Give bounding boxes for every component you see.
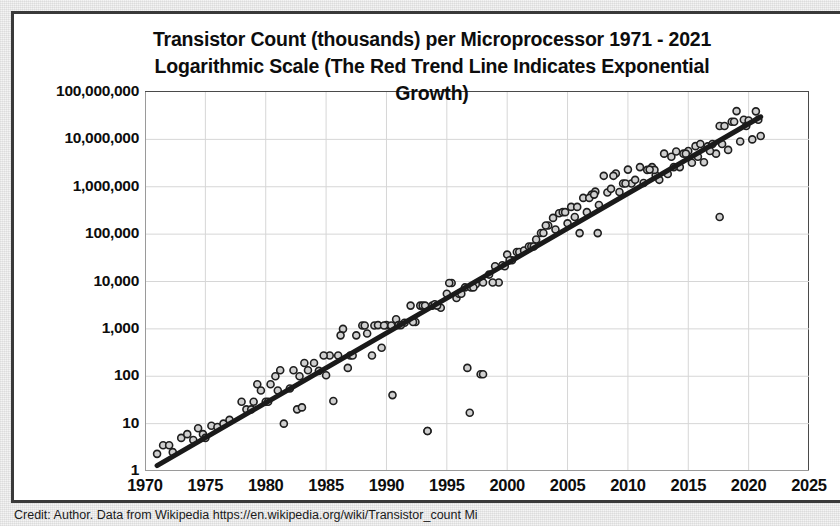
x-axis-tick-label: 1985: [308, 476, 344, 495]
plot-wrapper: [145, 91, 809, 470]
data-point: [267, 381, 274, 388]
data-point: [337, 332, 344, 339]
y-axis-tick-label: 1,000,000: [73, 177, 139, 195]
x-axis-tick-label: 2020: [731, 476, 767, 495]
data-point-outlier: [424, 427, 431, 434]
data-point: [154, 450, 161, 457]
x-axis-tick-label: 2005: [550, 476, 586, 495]
data-point: [489, 279, 496, 286]
x-axis-tick-label: 1975: [188, 476, 224, 495]
data-point: [542, 222, 549, 229]
data-point-outlier: [594, 230, 601, 237]
x-axis-tick-label: 1990: [369, 476, 405, 495]
data-point: [622, 180, 629, 187]
y-axis-tick-label: 100,000: [85, 224, 139, 242]
data-point: [700, 159, 707, 166]
x-axis-tick-label: 1995: [429, 476, 465, 495]
data-point: [533, 236, 540, 243]
screenshot-root: Transistor Count (thousands) per Micropr…: [0, 0, 840, 526]
data-point: [301, 360, 308, 367]
x-axis-tick-label: 1970: [127, 476, 163, 495]
data-point: [673, 148, 680, 155]
chart-card: Transistor Count (thousands) per Micropr…: [11, 11, 840, 503]
data-point: [757, 132, 764, 139]
data-point: [733, 108, 740, 115]
scatter-plot-svg: [145, 92, 809, 471]
data-point: [591, 191, 598, 198]
data-point: [311, 360, 318, 367]
data-point-outlier: [389, 392, 396, 399]
data-point: [250, 398, 257, 405]
data-point: [752, 108, 759, 115]
data-point: [697, 140, 704, 147]
x-axis-tick-label: 1980: [248, 476, 284, 495]
data-point: [407, 302, 414, 309]
data-point: [361, 322, 368, 329]
data-point: [731, 118, 738, 125]
x-axis-tick-label: 2010: [610, 476, 646, 495]
x-axis-tick-label: 2015: [671, 476, 707, 495]
data-point: [571, 213, 578, 220]
data-point: [296, 373, 303, 380]
data-point: [381, 322, 388, 329]
data-point: [624, 166, 631, 173]
x-axis-tick-label: 2000: [489, 476, 525, 495]
data-point: [632, 176, 639, 183]
data-point-outlier: [716, 213, 723, 220]
data-point: [323, 372, 330, 379]
x-axis-tick-label: 2025: [791, 476, 827, 495]
data-point: [661, 150, 668, 157]
data-point: [540, 229, 547, 236]
data-point: [600, 172, 607, 179]
data-point: [368, 352, 375, 359]
data-point: [364, 330, 371, 337]
data-point: [737, 138, 744, 145]
y-axis-tick-label: 100,000,000: [56, 82, 139, 100]
data-point: [646, 166, 653, 173]
data-point-outlier: [466, 409, 473, 416]
data-point: [725, 146, 732, 153]
data-point: [320, 352, 327, 359]
data-point: [344, 364, 351, 371]
trend-line: [157, 117, 761, 466]
data-point: [298, 404, 305, 411]
y-axis-tick-label: 10,000: [93, 272, 139, 290]
data-point: [304, 367, 311, 374]
data-point-outlier: [464, 364, 471, 371]
chart-title-line-1: Transistor Count (thousands) per Micropr…: [102, 26, 762, 53]
data-point: [257, 387, 264, 394]
data-point: [238, 398, 245, 405]
plot-area: [145, 91, 809, 470]
data-point: [636, 164, 643, 171]
data-point: [184, 431, 191, 438]
chart-title-line-2: Logarithmic Scale (The Red Trend Line In…: [102, 53, 762, 80]
y-axis-tick-label: 10,000,000: [64, 129, 139, 147]
data-point-outlier: [480, 371, 487, 378]
figure-caption: Credit: Author. Data from Wikipedia http…: [14, 508, 834, 522]
data-point: [576, 230, 583, 237]
data-point: [277, 367, 284, 374]
data-point: [610, 172, 617, 179]
data-point: [290, 367, 297, 374]
y-axis-tick-labels: 1101001,00010,000100,0001,000,00010,000,…: [14, 91, 139, 470]
y-axis-tick-label: 1,000: [102, 319, 139, 337]
data-point: [574, 203, 581, 210]
data-point: [608, 185, 615, 192]
data-point: [378, 344, 385, 351]
data-point: [749, 136, 756, 143]
x-axis-tick-labels: 1970197519801985199019952000200520102015…: [145, 476, 809, 503]
data-point: [562, 209, 569, 216]
scatter-points: [154, 108, 765, 458]
data-point: [446, 279, 453, 286]
data-point: [330, 398, 337, 405]
data-point: [166, 442, 173, 449]
data-point: [280, 420, 287, 427]
data-point: [721, 122, 728, 129]
y-axis-tick-label: 100: [114, 366, 139, 384]
y-axis-tick-label: 10: [122, 414, 139, 432]
data-point: [353, 332, 360, 339]
